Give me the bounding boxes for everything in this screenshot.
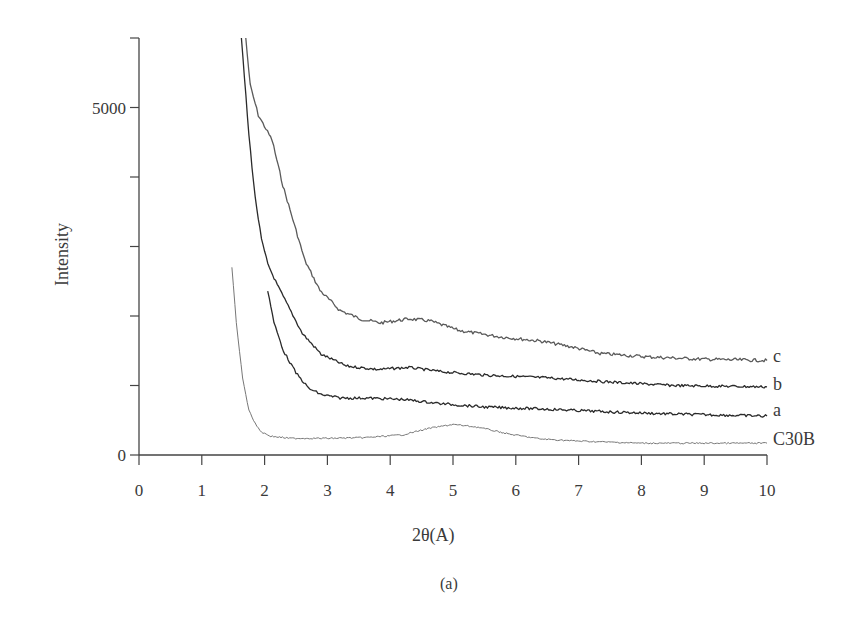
series-b: [241, 38, 767, 388]
x-axis-label: 2θ(A): [412, 525, 455, 546]
x-tick-label: 7: [574, 481, 583, 500]
x-tick-label: 10: [759, 481, 776, 500]
series-label-a: a: [773, 400, 781, 421]
y-axis-label: Intensity: [52, 215, 73, 295]
series-c: [246, 38, 767, 362]
y-tick-label: 0: [118, 446, 127, 465]
figure-caption: (a): [440, 575, 458, 593]
x-tick-label: 6: [512, 481, 521, 500]
x-tick-label: 8: [637, 481, 646, 500]
x-tick-label: 5: [449, 481, 458, 500]
curves: [232, 38, 767, 444]
y-tick-label: 5000: [92, 99, 126, 118]
x-tick-label: 1: [198, 481, 207, 500]
x-tick-label: 4: [386, 481, 395, 500]
x-tick-label: 9: [700, 481, 709, 500]
series-c30b: [232, 267, 767, 444]
series-label-c30b: C30B: [773, 429, 815, 450]
x-tick-label: 3: [323, 481, 332, 500]
x-tick-label: 2: [260, 481, 269, 500]
axes: 05000012345678910: [92, 38, 776, 500]
series-label-b: b: [773, 374, 782, 395]
series-label-c: c: [773, 346, 781, 367]
series-a: [268, 291, 767, 417]
x-tick-label: 0: [135, 481, 144, 500]
